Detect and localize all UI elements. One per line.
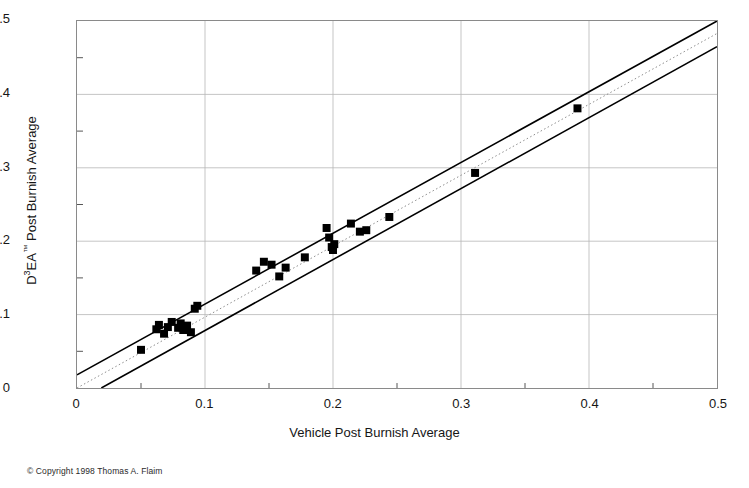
data-point [385,213,393,221]
x-tick-label: 0.3 [441,396,481,411]
regression-fit [77,33,717,388]
data-point [187,328,195,336]
data-point [471,169,479,177]
data-point [193,302,201,310]
data-point [268,261,276,269]
y-axis-title-tail: Post Burnish Average [24,116,39,244]
y-axis-title-superscript: 3 [22,270,32,275]
data-point [282,264,290,272]
y-axis-title-mid: EA [24,253,39,270]
y-tick-label: 0 [0,380,10,395]
x-tick-label: 0.5 [698,396,738,411]
data-point [275,272,283,280]
y-tick-label: 0.4 [0,85,10,100]
data-point [347,220,355,228]
data-point [301,253,309,261]
lower-confidence-band [101,47,717,388]
x-tick-label: 0.1 [184,396,224,411]
x-tick-label: 0 [56,396,96,411]
data-point [155,321,163,329]
x-tick-label: 0.2 [313,396,353,411]
axis-minor-ticks [77,58,653,388]
data-point [252,267,260,275]
plot-canvas [77,21,717,388]
y-tick-label: 0.3 [0,159,10,174]
gridlines [77,21,717,388]
y-tick-label: 0.5 [0,11,10,26]
data-point [260,258,268,266]
data-point [137,346,145,354]
data-point [573,104,581,112]
copyright-notice: © Copyright 1998 Thomas A. Flaim [27,466,162,476]
plot-area [76,20,718,389]
fit-lines [77,21,717,388]
x-tick-label: 0.4 [570,396,610,411]
data-point [323,224,331,232]
data-point [330,240,338,248]
y-tick-label: 0.2 [0,232,10,247]
y-axis-title: D3EA™ Post Burnish Average [24,76,39,326]
y-axis-title-lead: D [24,275,39,284]
chart-figure: Regressed Specific Torque D3EA™ Post Bur… [0,0,749,488]
data-point [362,226,370,234]
y-tick-label: 0.1 [0,306,10,321]
trademark-symbol: ™ [22,245,32,254]
x-axis-title: Vehicle Post Burnish Average [0,425,749,440]
data-point-group [137,104,581,353]
